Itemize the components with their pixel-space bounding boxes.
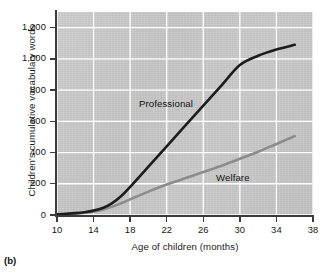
y-tick-label: 600 [30, 115, 46, 126]
x-tick-label: 22 [152, 224, 182, 235]
series-line-welfare [57, 136, 295, 214]
grid-lines-vertical [57, 12, 313, 215]
x-tick-label: 14 [79, 224, 109, 235]
x-tick-mark [276, 216, 277, 222]
grid-lines-horizontal [57, 28, 313, 215]
x-tick-mark [56, 216, 57, 222]
y-tick-label: 1,000 [22, 52, 46, 63]
x-tick-mark [203, 216, 204, 222]
y-tick-label: 200 [30, 177, 46, 188]
chart-canvas [57, 12, 313, 215]
x-tick-label: 26 [188, 224, 218, 235]
x-tick-label: 30 [225, 224, 255, 235]
y-tick-mark [50, 183, 56, 184]
x-tick-label: 34 [261, 224, 291, 235]
series-label-welfare: Welfare [216, 172, 250, 183]
y-tick-label: 400 [30, 146, 46, 157]
x-tick-label: 10 [42, 224, 72, 235]
y-axis-line [55, 10, 57, 217]
y-tick-mark [50, 58, 56, 59]
panel-label: (b) [4, 255, 16, 266]
series-line-professional [57, 45, 295, 214]
y-tick-mark [50, 214, 56, 215]
x-axis-title: Age of children (months) [57, 241, 313, 252]
y-tick-mark [50, 89, 56, 90]
x-tick-mark [312, 216, 313, 222]
x-tick-label: 38 [298, 224, 328, 235]
x-tick-label: 18 [115, 224, 145, 235]
y-tick-mark [50, 152, 56, 153]
y-tick-mark [50, 121, 56, 122]
series-lines [57, 45, 295, 215]
x-tick-mark [129, 216, 130, 222]
y-tick-label: 1,200 [22, 21, 46, 32]
x-tick-mark [93, 216, 94, 222]
y-tick-label: 0 [41, 209, 46, 220]
series-label-professional: Professional [139, 98, 193, 109]
figure-panel-b: Children's cumulative vocabulary words 0… [0, 0, 333, 274]
x-tick-mark [166, 216, 167, 222]
plot-area [57, 12, 313, 215]
y-tick-mark [50, 27, 56, 28]
x-tick-mark [239, 216, 240, 222]
y-tick-label: 800 [30, 84, 46, 95]
